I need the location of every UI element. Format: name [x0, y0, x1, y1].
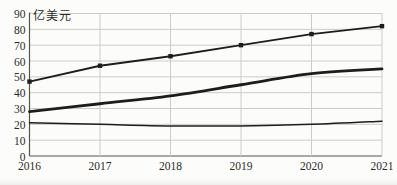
- data-point-marker: [380, 24, 384, 28]
- x-tick-label: 2021: [371, 160, 394, 172]
- x-tick-label: 2017: [89, 160, 112, 172]
- x-tick-label: 2019: [230, 160, 253, 172]
- data-point-marker: [239, 43, 243, 47]
- middle-bold-series-line: [30, 69, 383, 112]
- x-tick-label: 2020: [300, 160, 323, 172]
- y-tick-label: 70: [14, 40, 26, 52]
- data-point-marker: [98, 64, 102, 68]
- chart-figure: 0102030405060708090201620172018201920202…: [0, 0, 397, 185]
- y-tick-label: 80: [14, 24, 26, 36]
- data-point-marker: [168, 54, 172, 58]
- line-chart: 0102030405060708090201620172018201920202…: [0, 0, 397, 185]
- x-tick-label: 2016: [18, 160, 41, 172]
- data-point-marker: [27, 79, 31, 83]
- x-tick-label: 2018: [159, 160, 182, 172]
- y-axis-unit-label: 亿美元: [33, 6, 72, 24]
- bottom-thin-series-line: [30, 121, 383, 126]
- data-point-marker: [309, 32, 313, 36]
- y-tick-label: 10: [14, 135, 26, 147]
- y-tick-label: 20: [14, 119, 26, 131]
- y-tick-label: 40: [14, 87, 26, 99]
- y-tick-label: 30: [14, 103, 26, 115]
- y-tick-label: 50: [14, 71, 26, 83]
- y-tick-label: 60: [14, 56, 26, 68]
- y-tick-label: 90: [14, 8, 26, 20]
